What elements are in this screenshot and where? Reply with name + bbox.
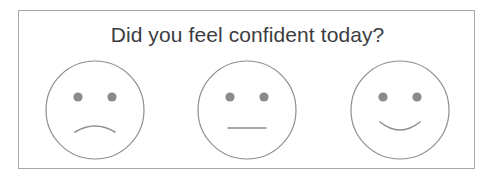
rating-option-neutral[interactable] xyxy=(195,58,299,162)
left-eye-icon xyxy=(226,92,235,101)
right-eye-icon xyxy=(108,92,117,101)
emoji-rating-scale xyxy=(19,54,476,166)
left-eye-icon xyxy=(378,92,387,101)
face-outline-neutral xyxy=(198,61,296,159)
page-title: Did you feel confident today? xyxy=(19,23,476,47)
survey-question-card: Did you feel confident today? xyxy=(18,10,475,169)
smile-mouth-icon xyxy=(380,122,420,130)
face-outline-happy xyxy=(351,61,449,159)
frown-mouth-icon xyxy=(75,126,115,132)
left-eye-icon xyxy=(74,92,83,101)
rating-option-happy[interactable] xyxy=(348,58,452,162)
rating-option-sad[interactable] xyxy=(43,58,147,162)
face-outline-sad xyxy=(46,61,144,159)
right-eye-icon xyxy=(412,92,421,101)
right-eye-icon xyxy=(260,92,269,101)
